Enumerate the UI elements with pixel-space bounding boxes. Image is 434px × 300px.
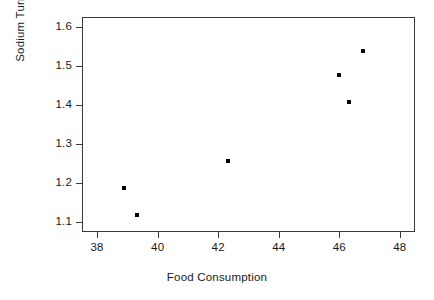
y-tick-label: 1.4 (55, 99, 72, 111)
data-point (347, 100, 351, 104)
scatter-chart: 1.11.21.31.41.51.6 384042444648 Sodium T… (0, 0, 434, 300)
data-point (361, 49, 365, 53)
x-tick-mark (400, 232, 401, 238)
data-point (122, 186, 126, 190)
y-tick-label: 1.3 (55, 138, 72, 150)
x-tick-mark (339, 232, 340, 238)
y-tick-mark (76, 105, 82, 106)
x-tick-label: 38 (77, 242, 117, 254)
x-tick-label: 46 (319, 242, 359, 254)
x-tick-mark (97, 232, 98, 238)
plot-area (82, 17, 415, 232)
data-point (337, 73, 341, 77)
y-axis-title: Sodium Turnover (14, 0, 36, 124)
data-point (226, 159, 230, 163)
y-tick-mark (76, 183, 82, 184)
data-point (135, 213, 139, 217)
x-axis-title: Food Consumption (0, 271, 434, 283)
x-tick-mark (158, 232, 159, 238)
y-tick-mark (76, 144, 82, 145)
y-tick-mark (76, 27, 82, 28)
x-tick-mark (279, 232, 280, 238)
x-tick-label: 40 (138, 242, 178, 254)
y-tick-label: 1.1 (55, 216, 72, 228)
y-tick-label: 1.5 (55, 60, 72, 72)
y-tick-mark (76, 66, 82, 67)
y-tick-label: 1.2 (55, 177, 72, 189)
x-tick-label: 48 (380, 242, 420, 254)
y-tick-label: 1.6 (55, 21, 72, 33)
x-tick-label: 44 (259, 242, 299, 254)
x-tick-label: 42 (198, 242, 238, 254)
y-tick-mark (76, 222, 82, 223)
x-tick-mark (218, 232, 219, 238)
